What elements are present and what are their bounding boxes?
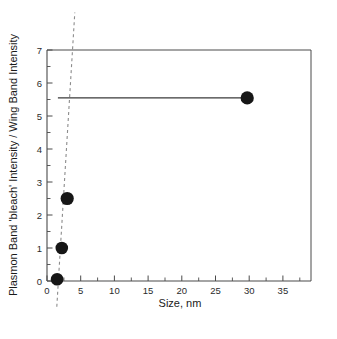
y-tick-label: 1 bbox=[37, 243, 42, 254]
x-tick-label: 35 bbox=[278, 285, 289, 296]
data-point bbox=[241, 91, 254, 104]
x-tick-label: 30 bbox=[244, 285, 255, 296]
y-tick-label: 6 bbox=[37, 78, 42, 89]
scatter-plot: 0 1 2 3 4 5 6 7 0 5 10 15 20 25 30 35 bbox=[0, 0, 337, 339]
y-tick-label: 0 bbox=[37, 276, 42, 287]
data-point bbox=[56, 242, 69, 255]
y-tick-label: 5 bbox=[37, 111, 42, 122]
x-tick-label: 20 bbox=[177, 285, 188, 296]
y-tick-label: 4 bbox=[37, 144, 42, 155]
x-tick-label: 5 bbox=[78, 285, 83, 296]
x-tick-label: 15 bbox=[143, 285, 154, 296]
y-axis-title: Plasmon Band 'bleach' Intensity / Wing B… bbox=[7, 33, 19, 296]
data-point bbox=[51, 273, 64, 286]
x-tick-label: 10 bbox=[109, 285, 120, 296]
data-point bbox=[61, 192, 74, 205]
x-tick-label: 0 bbox=[44, 285, 49, 296]
y-tick-label: 2 bbox=[37, 210, 42, 221]
figure-container: 0 1 2 3 4 5 6 7 0 5 10 15 20 25 30 35 bbox=[0, 0, 337, 339]
x-tick-label: 25 bbox=[210, 285, 221, 296]
y-tick-label: 7 bbox=[37, 45, 42, 56]
y-tick-label: 3 bbox=[37, 177, 42, 188]
x-axis-title: Size, nm bbox=[159, 297, 202, 309]
